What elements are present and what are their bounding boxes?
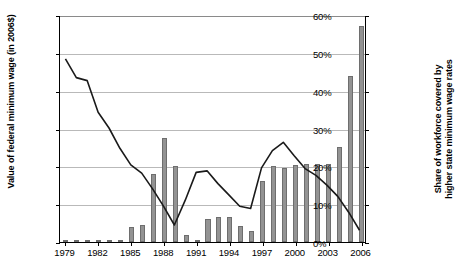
x-axis-ticklabel: 2003: [317, 247, 337, 258]
y-axis-right-tick: [365, 92, 369, 93]
y-axis-right-title-line2: higher state minimum wage rates: [444, 14, 455, 244]
x-axis-ticklabel: 2006: [350, 247, 370, 258]
y-axis-left-title: Value of federal minimum wage (in 2006$): [6, 59, 17, 189]
x-axis-tick: [230, 242, 231, 246]
x-axis-ticklabel: 1994: [219, 247, 239, 258]
x-axis-tick: [164, 242, 165, 246]
x-axis-tick: [65, 242, 66, 246]
x-axis-ticklabel: 1991: [186, 247, 206, 258]
y-axis-right-tick: [365, 243, 369, 244]
y-axis-right-ticklabel: 40%: [313, 86, 357, 97]
y-axis-right-title: Share of workforce covered by higher sta…: [433, 14, 455, 244]
y-axis-right-tick: [365, 167, 369, 168]
y-axis-right-tick: [365, 16, 369, 17]
y-axis-left-tick: [56, 243, 60, 244]
x-axis-tick: [131, 242, 132, 246]
x-axis-tick: [263, 242, 264, 246]
y-axis-right-ticklabel: 20%: [313, 162, 357, 173]
x-axis-tick: [362, 242, 363, 246]
x-axis-ticklabel: 1997: [252, 247, 272, 258]
x-axis-ticklabel: 1985: [120, 247, 140, 258]
y-axis-right-tick: [365, 54, 369, 55]
y-axis-right-ticklabel: 30%: [313, 124, 357, 135]
x-axis-ticklabel: 1982: [87, 247, 107, 258]
x-axis-tick: [296, 242, 297, 246]
y-axis-right-ticklabel: 60%: [313, 11, 357, 22]
y-axis-right-ticklabel: 10%: [313, 200, 357, 211]
x-axis-ticklabel: 1979: [54, 247, 74, 258]
y-axis-right-title-line1: Share of workforce covered by: [433, 14, 444, 244]
x-axis-tick: [98, 242, 99, 246]
y-axis-right-tick: [365, 205, 369, 206]
x-axis-tick: [197, 242, 198, 246]
y-axis-right-tick: [365, 130, 369, 131]
y-axis-right-ticklabel: 50%: [313, 48, 357, 59]
x-axis-ticklabel: 2000: [285, 247, 305, 258]
x-axis-ticklabel: 1988: [153, 247, 173, 258]
